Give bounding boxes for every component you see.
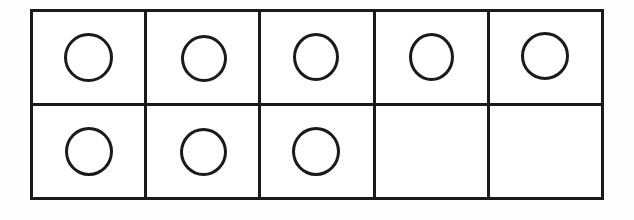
circle-counter-icon: [64, 33, 113, 82]
ten-frame-cell-r1c1[interactable]: [33, 12, 147, 106]
circle-counter-icon: [293, 33, 339, 81]
circle-counter-icon: [292, 127, 340, 176]
ten-frame-cell-r1c4[interactable]: [376, 12, 490, 106]
ten-frame-cell-r2c1[interactable]: [33, 106, 147, 200]
circle-counter-icon: [65, 127, 113, 176]
ten-frame-cell-r2c4[interactable]: [376, 106, 490, 200]
circle-counter-icon: [409, 33, 454, 81]
ten-frame-cell-r1c3[interactable]: [261, 12, 375, 106]
circle-counter-icon: [521, 32, 569, 80]
ten-frame-cell-r1c5[interactable]: [490, 12, 604, 106]
circle-counter-icon: [181, 35, 227, 82]
circle-counter-icon: [180, 128, 227, 176]
ten-frame-cell-r2c5[interactable]: [490, 106, 604, 200]
ten-frame-cell-r2c3[interactable]: [261, 106, 375, 200]
ten-frame-cell-r2c2[interactable]: [147, 106, 261, 200]
figure-description: A two-by-five ten frame with eight circl…: [0, 0, 1, 1]
ten-frame-figure: A two-by-five ten frame with eight circl…: [0, 0, 634, 220]
ten-frame-cell-r1c2[interactable]: [147, 12, 261, 106]
ten-frame-grid: [30, 9, 604, 200]
